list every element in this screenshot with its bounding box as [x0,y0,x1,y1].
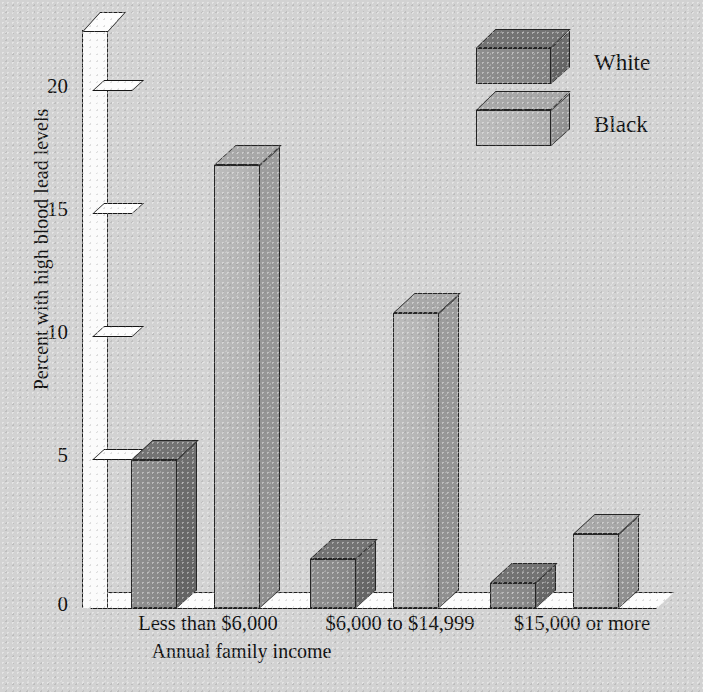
bar-white-15000-or-more[interactable] [490,583,536,608]
bar-black-6000-to-14999[interactable] [393,313,439,608]
bar-front-face [573,534,619,608]
bar-side-face [260,147,280,608]
bar-white-less-than-6000[interactable] [131,460,177,608]
bar-side-face [439,295,459,608]
bar-side-face [177,442,197,608]
legend-swatch-black [476,110,551,146]
chart-canvas: 20 15 10 5 0 Percent with high blood lea… [0,0,703,692]
bar-white-6000-to-14999[interactable] [310,559,356,608]
bar-front-face [393,313,439,608]
y-axis-slab [82,30,108,608]
y-axis-tick-label-5: 5 [34,443,68,468]
bar-black-15000-or-more[interactable] [573,534,619,608]
bar-front-face [131,460,177,608]
y-axis-top-cap [82,12,126,32]
bar-front-face [490,583,536,608]
bar-front-face [214,165,260,608]
legend-label-black: Black [594,112,648,138]
bar-black-less-than-6000[interactable] [214,165,260,608]
legend-swatch-front-face [476,48,551,84]
x-axis-category-1: $6,000 to $14,999 [292,612,508,635]
legend-swatch-front-face [476,110,551,146]
legend-label-white: White [594,50,650,76]
bar-front-face [310,559,356,608]
x-axis-category-0: Less than $6,000 [110,612,306,635]
legend-swatch-white [476,48,551,84]
y-axis-tick-label-0: 0 [34,592,68,617]
x-axis-title-text: Annual family income [152,640,332,662]
x-axis-category-2: $15,000 or more [478,612,686,635]
y-axis-title: Percent with high blood lead levels [30,85,53,415]
x-axis-title: Annual family income [0,640,703,663]
